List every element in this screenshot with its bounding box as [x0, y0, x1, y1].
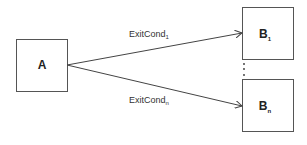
node-bn-subscript: n: [268, 108, 272, 114]
diagram-canvas: A B1 Bn ExitCond1 ExitCondn: [0, 0, 307, 145]
node-b1-label: B: [259, 27, 268, 41]
edge-label-n: ExitCondn: [129, 95, 169, 106]
node-b1: B1: [243, 8, 294, 60]
node-bn-label: B: [259, 99, 268, 113]
node-a-label: A: [38, 58, 47, 72]
ellipsis-dots: [243, 63, 245, 76]
node-a: A: [17, 40, 68, 92]
edge-label-n-subscript: n: [166, 100, 169, 106]
edge-label-1: ExitCond1: [129, 29, 170, 40]
edge-label-1-subscript: 1: [166, 34, 170, 40]
node-bn: Bn: [243, 80, 294, 132]
